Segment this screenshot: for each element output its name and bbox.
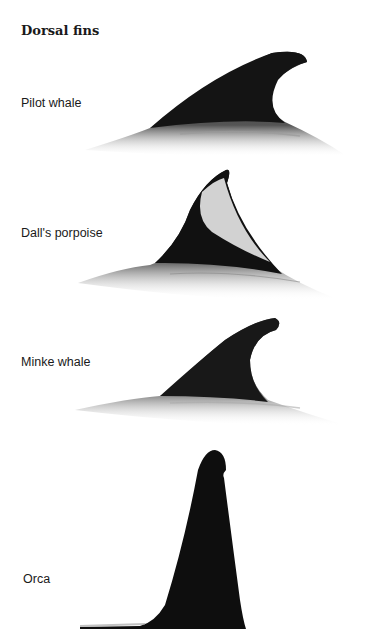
minke-whale-fin [75,318,345,425]
orca-fin [80,450,246,629]
dorsal-fin-illustrations [0,0,381,629]
pilot-whale-fin [85,52,345,157]
dalls-porpoise-fin [78,170,335,300]
